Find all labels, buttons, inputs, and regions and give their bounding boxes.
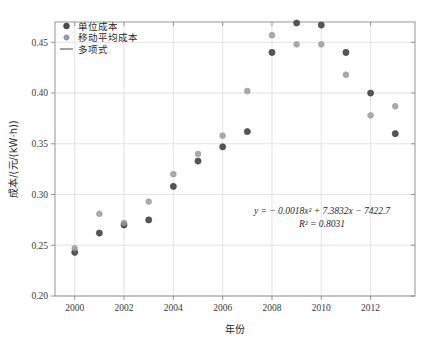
data-point bbox=[96, 211, 102, 217]
scatter-plot: 20002002200420062008201020120.200.250.30… bbox=[0, 0, 429, 352]
data-point bbox=[170, 183, 176, 189]
legend-marker-dot bbox=[64, 35, 69, 40]
data-point bbox=[146, 199, 152, 205]
chart-figure: 20002002200420062008201020120.200.250.30… bbox=[0, 0, 429, 352]
legend-marker-dot bbox=[64, 23, 70, 29]
data-point bbox=[195, 158, 201, 164]
series-moving-average bbox=[72, 32, 398, 251]
y-tick-label: 0.45 bbox=[31, 38, 48, 48]
data-point bbox=[368, 90, 374, 96]
data-point bbox=[318, 41, 324, 47]
chart-legend: 单位成本移动平均成本多项式 bbox=[48, 15, 152, 55]
data-point bbox=[121, 220, 127, 226]
legend-label: 移动平均成本 bbox=[78, 32, 138, 43]
data-point bbox=[269, 32, 275, 38]
data-point bbox=[195, 151, 201, 157]
equation-annotation: y = − 0.0018x² + 7.3832x − 7422.7 bbox=[253, 206, 391, 216]
y-axis: 0.200.250.300.350.400.45 bbox=[31, 38, 415, 302]
series-unit-cost bbox=[72, 20, 399, 256]
data-point bbox=[96, 230, 102, 236]
y-tick-label: 0.40 bbox=[31, 88, 48, 98]
legend-label: 多项式 bbox=[78, 44, 108, 55]
data-point bbox=[294, 41, 300, 47]
data-point bbox=[343, 49, 349, 55]
y-axis-title: 成本/(元/(kW·h)) bbox=[7, 120, 19, 198]
data-point bbox=[318, 22, 324, 28]
data-point bbox=[170, 171, 176, 177]
x-axis-title: 年份 bbox=[225, 323, 245, 335]
plot-frame bbox=[55, 22, 415, 296]
x-tick-label: 2004 bbox=[164, 303, 183, 313]
x-tick-label: 2012 bbox=[361, 303, 380, 313]
data-point bbox=[244, 129, 250, 135]
data-point bbox=[392, 131, 398, 137]
data-point bbox=[220, 144, 226, 150]
y-tick-label: 0.30 bbox=[31, 190, 48, 200]
data-point bbox=[343, 72, 349, 78]
data-point bbox=[368, 112, 374, 118]
data-point bbox=[294, 20, 300, 26]
r-squared-annotation: R² = 0.8031 bbox=[298, 219, 345, 229]
x-tick-label: 2000 bbox=[65, 303, 84, 313]
data-point bbox=[146, 217, 152, 223]
y-tick-label: 0.20 bbox=[31, 291, 48, 301]
data-point bbox=[244, 88, 250, 94]
grid-lines bbox=[55, 22, 415, 296]
data-point bbox=[220, 133, 226, 139]
data-point bbox=[269, 49, 275, 55]
legend-label: 单位成本 bbox=[78, 21, 118, 32]
data-point bbox=[72, 245, 78, 251]
y-tick-label: 0.35 bbox=[31, 139, 48, 149]
x-tick-label: 2006 bbox=[213, 303, 232, 313]
data-point bbox=[392, 103, 398, 109]
x-tick-label: 2010 bbox=[312, 303, 331, 313]
x-tick-label: 2008 bbox=[262, 303, 281, 313]
x-tick-label: 2002 bbox=[115, 303, 134, 313]
y-tick-label: 0.25 bbox=[31, 241, 48, 251]
